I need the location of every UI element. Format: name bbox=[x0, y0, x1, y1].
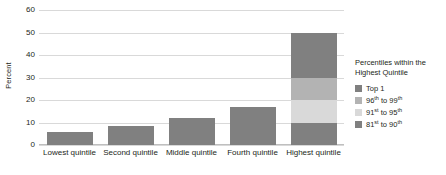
y-axis-tick-label: 50 bbox=[26, 29, 35, 37]
legend-item[interactable]: Top 1 bbox=[355, 83, 445, 94]
legend-items: Top 196th to 99th91st to 95th81st to 90t… bbox=[355, 83, 445, 130]
x-axis-category-label: Middle quintile bbox=[161, 148, 222, 158]
gridline: 0 bbox=[39, 145, 344, 146]
y-axis-tick-label: 40 bbox=[26, 51, 35, 59]
bar-series bbox=[39, 10, 344, 145]
legend-label: 96th to 99th bbox=[366, 96, 402, 105]
bar-segment[interactable] bbox=[291, 33, 337, 78]
bar-group[interactable] bbox=[108, 10, 154, 145]
bar-segment[interactable] bbox=[169, 118, 215, 145]
bar-stack bbox=[108, 126, 154, 145]
y-axis-title-text: Percent bbox=[4, 62, 13, 89]
y-axis-tick-label: 0 bbox=[31, 141, 35, 149]
bar-stack bbox=[47, 132, 93, 146]
y-axis-tick-label: 10 bbox=[26, 119, 35, 127]
bar-stack bbox=[291, 33, 337, 146]
y-axis-title: Percent bbox=[0, 0, 16, 150]
legend-title-line-2: Highest Quintile bbox=[355, 68, 443, 78]
legend-item[interactable]: 96th to 99th bbox=[355, 95, 445, 106]
bar-segment[interactable] bbox=[108, 126, 154, 145]
bar-segment[interactable] bbox=[230, 107, 276, 145]
bar-stack bbox=[169, 118, 215, 145]
legend-label: Top 1 bbox=[366, 84, 384, 93]
y-axis-tick-label: 30 bbox=[26, 74, 35, 82]
legend-label: 81st to 90th bbox=[366, 120, 402, 129]
y-axis-tick-label: 60 bbox=[26, 6, 35, 14]
legend-item[interactable]: 91st to 95th bbox=[355, 107, 445, 118]
bar-segment[interactable] bbox=[291, 100, 337, 123]
bar-group[interactable] bbox=[291, 10, 337, 145]
x-axis-category-label: Highest quintile bbox=[283, 148, 344, 158]
x-axis-category-label: Lowest quintile bbox=[39, 148, 100, 158]
legend-title: Percentiles within the Highest Quintile bbox=[355, 58, 443, 77]
legend-title-line-1: Percentiles within the bbox=[355, 58, 443, 68]
bar-group[interactable] bbox=[230, 10, 276, 145]
y-axis-tick-label: 20 bbox=[26, 96, 35, 104]
legend-swatch bbox=[355, 97, 362, 104]
bar-segment[interactable] bbox=[47, 132, 93, 146]
bar-segment[interactable] bbox=[291, 78, 337, 101]
legend-item[interactable]: 81st to 90th bbox=[355, 119, 445, 130]
legend-label: 91st to 95th bbox=[366, 108, 402, 117]
legend-swatch bbox=[355, 109, 362, 116]
legend: Percentiles within the Highest Quintile … bbox=[355, 58, 445, 131]
bar-stack bbox=[230, 107, 276, 145]
legend-swatch bbox=[355, 85, 362, 92]
chart-container: Percent 0102030405060 Lowest quintileSec… bbox=[0, 0, 446, 175]
x-axis-category-labels: Lowest quintileSecond quintileMiddle qui… bbox=[39, 148, 344, 166]
legend-swatch bbox=[355, 121, 362, 128]
bar-group[interactable] bbox=[47, 10, 93, 145]
plot-area: 0102030405060 bbox=[39, 10, 344, 145]
x-axis-category-label: Fourth quintile bbox=[222, 148, 283, 158]
x-axis-category-label: Second quintile bbox=[100, 148, 161, 158]
bar-group[interactable] bbox=[169, 10, 215, 145]
bar-segment[interactable] bbox=[291, 123, 337, 146]
